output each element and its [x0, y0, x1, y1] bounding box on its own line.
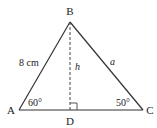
side-bc-label: a	[110, 56, 115, 67]
vertex-label-b: B	[66, 5, 73, 17]
vertex-label-c: C	[146, 104, 153, 116]
angle-a-label: 60°	[28, 97, 42, 108]
vertex-label-d: D	[66, 115, 74, 127]
vertex-label-a: A	[7, 104, 15, 116]
side-ab-label: 8 cm	[19, 57, 39, 68]
altitude-label: h	[75, 61, 80, 72]
right-angle-icon	[70, 103, 77, 110]
angle-c-label: 50°	[116, 97, 130, 108]
triangle-diagram: B A C D 8 cm h a 60° 50°	[0, 0, 157, 128]
side-bc	[70, 22, 143, 110]
